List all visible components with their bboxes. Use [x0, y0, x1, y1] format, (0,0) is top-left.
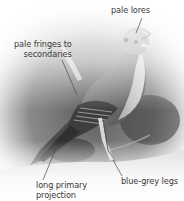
- annotation-blue-grey-legs: blue-grey legs: [121, 177, 178, 187]
- bird-photo: [0, 0, 184, 201]
- annotation-pale-fringes-to-secondaries: pale fringes to secondaries: [14, 40, 72, 59]
- annotation-long-primary-projection: long primary projection: [36, 181, 87, 200]
- annotation-pale-lores: pale lores: [111, 6, 150, 16]
- annotated-bird-figure: pale lores pale fringes to secondaries b…: [0, 0, 184, 201]
